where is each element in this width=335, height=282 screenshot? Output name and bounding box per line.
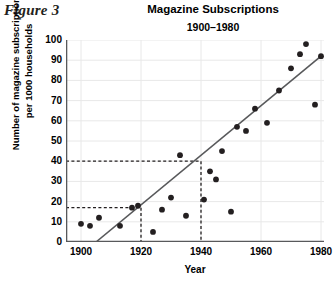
- x-axis-tick-1940: 1940: [181, 246, 221, 257]
- x-axis-label: Year: [66, 264, 324, 275]
- trend-line: [96, 56, 321, 242]
- y-axis-label-line1: Number of magazine subscriptions: [10, 0, 21, 150]
- x-axis-tick-1960: 1960: [241, 246, 281, 257]
- gridlines: [66, 40, 324, 242]
- y-axis-tick-20: 20: [32, 196, 62, 207]
- x-axis-tick-1980: 1980: [301, 246, 335, 257]
- y-axis-tick-30: 30: [32, 175, 62, 186]
- y-axis-tick-100: 100: [32, 34, 62, 45]
- x-axis-tick-1900: 1900: [61, 246, 101, 257]
- chart-subtitle: 1900–1980: [118, 21, 308, 33]
- y-axis-tick-70: 70: [32, 95, 62, 106]
- x-axis-tick-1920: 1920: [121, 246, 161, 257]
- y-axis-tick-0: 0: [32, 236, 62, 247]
- y-axis-tick-90: 90: [32, 54, 62, 65]
- y-axis-tick-80: 80: [32, 74, 62, 85]
- y-axis-tick-10: 10: [32, 216, 62, 227]
- y-axis-tick-40: 40: [32, 155, 62, 166]
- chart-title: Magazine Subscriptions: [118, 3, 308, 15]
- y-axis-tick-50: 50: [32, 135, 62, 146]
- y-axis-tick-60: 60: [32, 115, 62, 126]
- plot-area: [66, 40, 324, 242]
